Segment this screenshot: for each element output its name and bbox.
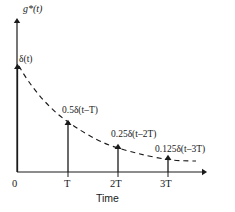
impulse-label-t: 0.5δ(t–T)	[62, 106, 98, 116]
impulse-label-3t-text: 0.125δ(t–3T)	[155, 144, 205, 154]
impulse-train-figure: g*(t) δ(t) 0.5δ(t–T) 0.25δ(t–2T) 0.125δ(…	[0, 0, 235, 212]
x-tick-label-t: T	[64, 179, 70, 190]
x-tick-label-t-text: T	[64, 178, 70, 189]
impulse-label-2t-text: 0.25δ(t–2T)	[111, 129, 156, 139]
x-tick-label-0-text: 0	[12, 178, 17, 189]
impulse-label-t-text: 0.5δ(t–T)	[62, 105, 98, 115]
impulse-label-0-text: δ(t)	[19, 54, 32, 64]
impulse-label-3t: 0.125δ(t–3T)	[155, 145, 205, 155]
x-tick-label-3t-text: 3T	[160, 178, 172, 189]
x-axis-label: Time	[96, 193, 119, 204]
impulse-label-0: δ(t)	[19, 55, 32, 65]
y-axis-label-text: g*(t)	[23, 3, 42, 14]
impulse-label-2t: 0.25δ(t–2T)	[111, 130, 156, 140]
x-axis-label-text: Time	[96, 192, 119, 204]
y-axis-label: g*(t)	[23, 4, 42, 14]
x-tick-label-3t: 3T	[160, 179, 172, 190]
x-tick-label-2t: 2T	[110, 179, 122, 190]
x-tick-label-0: 0	[12, 179, 17, 190]
x-tick-label-2t-text: 2T	[110, 178, 122, 189]
